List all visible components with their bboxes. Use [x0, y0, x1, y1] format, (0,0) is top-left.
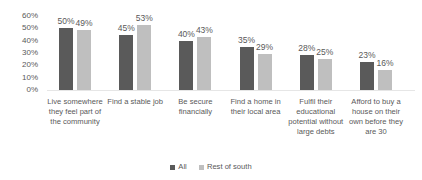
- y-tick-label: 0%: [0, 86, 38, 94]
- bar-value-label: 49%: [69, 19, 99, 28]
- x-category-label: Live somewhere they feel part of the com…: [43, 97, 107, 127]
- grouped-bar-chart: 0%10%20%30%40%50%60% 50%49%45%53%40%43%3…: [0, 0, 422, 180]
- bar-all: [240, 47, 254, 90]
- bar-all: [59, 28, 73, 90]
- bar-value-label: 25%: [310, 48, 340, 57]
- bar-rest-of-south: [197, 37, 211, 90]
- bar-rest-of-south: [258, 54, 272, 90]
- bar-all: [119, 35, 133, 91]
- bar-value-label: 53%: [129, 14, 159, 23]
- y-tick-label: 30%: [0, 49, 38, 57]
- legend-label-all: All: [178, 162, 186, 172]
- legend-item-rest-of-south: Rest of south: [199, 162, 252, 172]
- x-axis-baseline: [47, 90, 415, 91]
- legend-item-all: All: [170, 162, 186, 172]
- x-category-label: Find a home in their local area: [224, 97, 288, 117]
- x-category-label: Find a stable job: [103, 97, 167, 107]
- bar-rest-of-south: [137, 25, 151, 90]
- y-tick-label: 60%: [0, 12, 38, 20]
- legend-swatch-all: [170, 165, 175, 170]
- x-category-label: Fulfil their educational potential witho…: [284, 97, 348, 137]
- y-tick-label: 20%: [0, 61, 38, 69]
- bar-value-label: 29%: [250, 43, 280, 52]
- bar-rest-of-south: [378, 70, 392, 90]
- bar-all: [300, 55, 314, 90]
- y-tick-label: 10%: [0, 74, 38, 82]
- x-category-label: Be secure financially: [163, 97, 227, 117]
- bar-rest-of-south: [77, 30, 91, 90]
- legend-swatch-rest-of-south: [199, 165, 204, 170]
- bar-all: [179, 41, 193, 90]
- legend: All Rest of south: [0, 162, 422, 173]
- x-category-label: Afford to buy a house on their own befor…: [344, 97, 408, 137]
- bar-value-label: 16%: [370, 59, 400, 68]
- y-tick-label: 40%: [0, 37, 38, 45]
- bar-value-label: 43%: [189, 26, 219, 35]
- legend-label-rest-of-south: Rest of south: [207, 162, 252, 172]
- bar-rest-of-south: [318, 59, 332, 90]
- y-tick-label: 50%: [0, 24, 38, 32]
